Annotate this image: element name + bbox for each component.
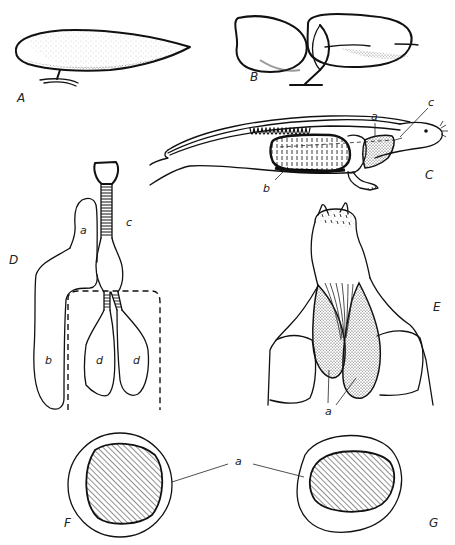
- label-d-part-b: b: [45, 355, 52, 366]
- label-d-part-d2: d: [133, 355, 140, 366]
- label-e-part-a: a: [325, 406, 332, 417]
- label-f-figure: F: [64, 517, 71, 529]
- label-d-part-d1: d: [96, 355, 103, 366]
- label-b-figure: B: [250, 71, 258, 83]
- label-a-figure: A: [17, 92, 25, 104]
- label-fg-part-a: a: [235, 456, 242, 467]
- figure-a: [16, 30, 190, 86]
- figure-g: [297, 435, 401, 532]
- label-c-part-c: c: [428, 97, 434, 108]
- diagram-canvas: [0, 0, 455, 545]
- figure-b: [235, 14, 418, 85]
- label-d-part-a: a: [80, 225, 87, 236]
- figure-f: [68, 433, 172, 537]
- label-d-part-c: c: [126, 217, 132, 228]
- pointer-g: [253, 464, 304, 477]
- label-c-figure: C: [425, 169, 433, 181]
- label-c-part-b: b: [263, 183, 270, 194]
- label-e-figure: E: [433, 301, 441, 313]
- figure-c: [150, 108, 448, 190]
- label-d-figure: D: [9, 254, 18, 266]
- pointer-f: [172, 464, 228, 482]
- label-c-part-a: a: [371, 111, 378, 122]
- label-g-figure: G: [429, 517, 438, 529]
- figure-e: [268, 203, 433, 405]
- figure-d: [34, 162, 160, 410]
